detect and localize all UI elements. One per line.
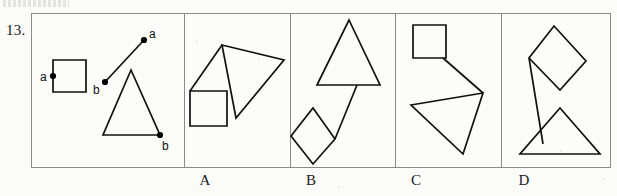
option-cell-a-figure [185, 14, 290, 167]
scan-speckle [338, 186, 340, 188]
option-letter-d[interactable]: D [504, 172, 544, 189]
scan-speckle [560, 150, 562, 152]
scan-speckle [602, 178, 605, 180]
prompt-segment [105, 40, 144, 82]
point-b-on-segment-label: b [93, 83, 100, 97]
option-cell-a[interactable] [185, 14, 290, 167]
option-d-triangle [520, 108, 600, 154]
option-letter-b[interactable]: B [291, 172, 331, 189]
option-cell-b[interactable] [291, 14, 396, 167]
option-a-triangle [222, 45, 284, 118]
scan-speckle [258, 58, 260, 60]
scan-speckle [196, 41, 198, 43]
scan-speckle [430, 98, 432, 100]
option-c-segment [443, 58, 483, 93]
option-a-square [190, 91, 227, 126]
prompt-square [53, 60, 86, 92]
worksheet-page: 13. aabb ABCD [0, 0, 617, 196]
option-letter-c[interactable]: C [396, 172, 436, 189]
answer-choice-strip: aabb [31, 13, 611, 168]
option-d-diamond [529, 26, 586, 90]
option-cell-d[interactable] [502, 14, 612, 167]
option-b-triangle [317, 20, 380, 85]
point-b-on-triangle-label: b [162, 139, 169, 153]
point-a-on-square [50, 73, 56, 79]
point-a-on-segment-label: a [149, 27, 156, 41]
question-number: 13. [6, 22, 25, 39]
option-b-segment [335, 85, 357, 139]
option-b-diamond [291, 108, 335, 164]
scan-speckle [144, 110, 146, 112]
option-cell-c[interactable] [396, 14, 501, 167]
cropped-text-sliver [3, 0, 69, 7]
option-cell-d-figure [502, 14, 612, 167]
point-b-on-triangle [157, 132, 163, 138]
option-cell-c-figure [396, 14, 501, 167]
option-c-triangle [411, 93, 483, 154]
option-letter-a[interactable]: A [185, 172, 225, 189]
option-cell-b-figure [291, 14, 396, 167]
point-b-on-segment [102, 79, 108, 85]
option-c-square [413, 25, 446, 58]
prompt-triangle [103, 70, 160, 135]
option-a-segment [190, 45, 222, 91]
point-a-on-square-label: a [40, 70, 47, 84]
point-a-on-segment [141, 37, 147, 43]
prompt-cell[interactable]: aabb [32, 14, 184, 167]
prompt-cell-figure: aabb [32, 14, 184, 167]
